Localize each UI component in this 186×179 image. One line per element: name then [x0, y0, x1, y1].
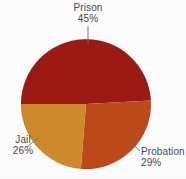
slice-label-probation: Probation 29%: [141, 146, 186, 168]
pie-slice-prison: [21, 39, 151, 104]
slice-label-jail-name: Jail: [2, 134, 44, 145]
slice-label-jail: Jail 26%: [2, 134, 44, 156]
slice-label-probation-value: 29%: [141, 157, 186, 168]
slice-label-prison-value: 45%: [58, 13, 118, 24]
slice-label-prison-name: Prison: [58, 2, 118, 13]
pie-chart: Prison 45% Jail 26% Probation 29%: [0, 0, 186, 179]
slice-label-probation-name: Probation: [141, 146, 186, 157]
slice-label-jail-value: 26%: [2, 145, 44, 156]
slice-label-prison: Prison 45%: [58, 2, 118, 24]
